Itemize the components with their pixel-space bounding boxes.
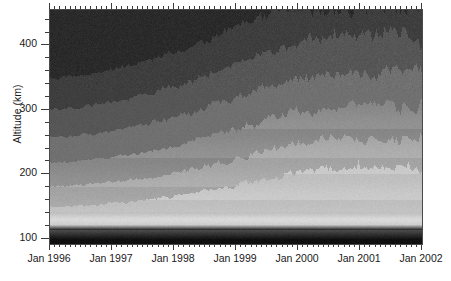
y-tick-label: 300 (3, 103, 37, 113)
x-tick-label: Jan 1997 (76, 253, 146, 264)
x-tick-label: Jan 1996 (14, 253, 84, 264)
y-tick-label: 400 (3, 38, 37, 48)
figure-container: Altitude (km) 100200300400 Jan 1996Jan 1… (0, 0, 451, 281)
y-tick-label: 200 (3, 167, 37, 177)
x-tick-label: Jan 2001 (324, 253, 394, 264)
x-tick-label: Jan 2000 (262, 253, 332, 264)
x-tick-label: Jan 1999 (200, 253, 270, 264)
y-tick-major (41, 44, 49, 45)
y-tick-major (41, 173, 49, 174)
y-tick-label: 100 (3, 232, 37, 242)
plot-area (49, 9, 423, 245)
x-tick-label: Jan 2002 (386, 253, 451, 264)
y-axis-title: Altitude (km) (11, 69, 23, 159)
y-tick-major (41, 109, 49, 110)
y-tick-major (41, 238, 49, 239)
altitude-time-heatmap (50, 10, 422, 244)
x-tick-label: Jan 1998 (138, 253, 208, 264)
